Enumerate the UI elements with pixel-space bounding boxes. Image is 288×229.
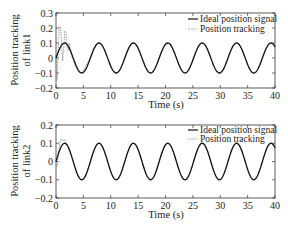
bottom-x-axis-label: Time (s) — [148, 209, 184, 221]
bottom-x-tick-label: 35 — [243, 200, 253, 211]
bottom-x-tick-label: 0 — [54, 200, 59, 211]
bottom-chart-panel: 0510152025303540−0.2−0.100.10.2 Ideal po… — [9, 120, 280, 222]
top-x-tick-label: 15 — [133, 90, 143, 101]
top-x-tick-label: 10 — [106, 90, 116, 101]
top-legend-ideal-label: Ideal position signal — [200, 14, 277, 24]
bottom-legend-tracking-label: Position tracking — [200, 134, 265, 144]
top-y-tick-label: −0.1 — [35, 68, 53, 79]
bottom-legend: Ideal position signal Position tracking — [188, 125, 277, 144]
top-x-tick-label: 25 — [188, 90, 198, 101]
figure: 0510152025303540−0.2−0.100.10.20.3 Ideal… — [0, 0, 288, 229]
top-x-tick-label: 0 — [54, 90, 59, 101]
bottom-y-tick-label: −0.2 — [35, 193, 53, 204]
top-y-tick-label: 0.3 — [41, 8, 54, 19]
top-position-tracking-line — [56, 27, 275, 81]
bottom-y-axis-label: Position tracking of link2 — [9, 125, 32, 197]
top-series-lines — [56, 27, 275, 81]
top-chart-panel: 0510152025303540−0.2−0.100.10.20.3 Ideal… — [9, 8, 280, 112]
bottom-y-tick-label: 0.1 — [41, 138, 54, 149]
top-y-tick-label: 0.1 — [41, 38, 54, 49]
top-x-tick-label: 30 — [215, 90, 225, 101]
top-y-tick-label: 0 — [48, 53, 53, 64]
bottom-x-tick-label: 40 — [270, 200, 280, 211]
bottom-y-tick-label: −0.1 — [35, 174, 53, 185]
top-legend-tracking-label: Position tracking — [200, 24, 265, 34]
top-x-tick-label: 5 — [81, 90, 86, 101]
bottom-y-axis-label-line2: of link2 — [21, 145, 32, 178]
top-legend: Ideal position signal Position tracking — [188, 14, 277, 34]
top-y-tick-label: −0.2 — [35, 83, 53, 94]
bottom-y-axis-label-line1: Position tracking — [9, 125, 20, 197]
bottom-series-lines — [56, 139, 275, 180]
bottom-x-tick-label: 15 — [133, 200, 143, 211]
bottom-x-tick-label: 10 — [106, 200, 116, 211]
top-x-axis-label: Time (s) — [148, 99, 184, 111]
bottom-x-tick-label: 5 — [81, 200, 86, 211]
bottom-y-tick-label: 0 — [48, 156, 53, 167]
bottom-ideal-position-line — [56, 143, 275, 180]
bottom-y-tick-label: 0.2 — [41, 120, 54, 131]
top-x-tick-label: 40 — [270, 90, 280, 101]
top-ideal-position-line — [56, 43, 275, 73]
top-y-axis-label: Position tracking of link1 — [9, 14, 32, 86]
top-y-axis-label-line1: Position tracking — [9, 14, 20, 86]
top-y-tick-label: 0.2 — [41, 23, 54, 34]
bottom-x-tick-label: 30 — [215, 200, 225, 211]
bottom-x-tick-label: 25 — [188, 200, 198, 211]
top-x-tick-label: 35 — [243, 90, 253, 101]
top-y-axis-label-line2: of link1 — [21, 34, 32, 67]
